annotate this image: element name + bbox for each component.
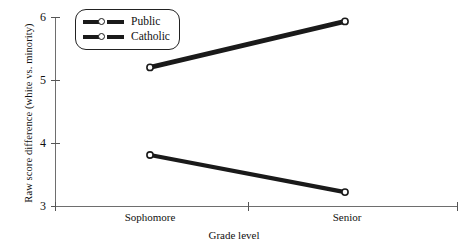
legend-line-marker-icon xyxy=(83,16,124,27)
legend-label-catholic: Catholic xyxy=(131,30,170,43)
chart-figure: Raw score difference (white vs. minority… xyxy=(0,0,468,250)
series-catholic-line xyxy=(150,155,345,192)
legend-label-public: Public xyxy=(131,15,160,28)
legend-item-public: Public xyxy=(83,14,170,29)
legend-line-marker-icon xyxy=(83,31,124,42)
series-public-marker-sophomore xyxy=(147,64,153,70)
legend-item-catholic: Catholic xyxy=(83,29,170,44)
series-catholic-marker-sophomore xyxy=(147,152,153,158)
plot-area xyxy=(0,0,468,250)
chart-legend: Public Catholic xyxy=(75,9,180,50)
series-catholic-marker-senior xyxy=(342,189,348,195)
series-public-marker-senior xyxy=(342,18,348,24)
series-catholic xyxy=(147,152,348,195)
